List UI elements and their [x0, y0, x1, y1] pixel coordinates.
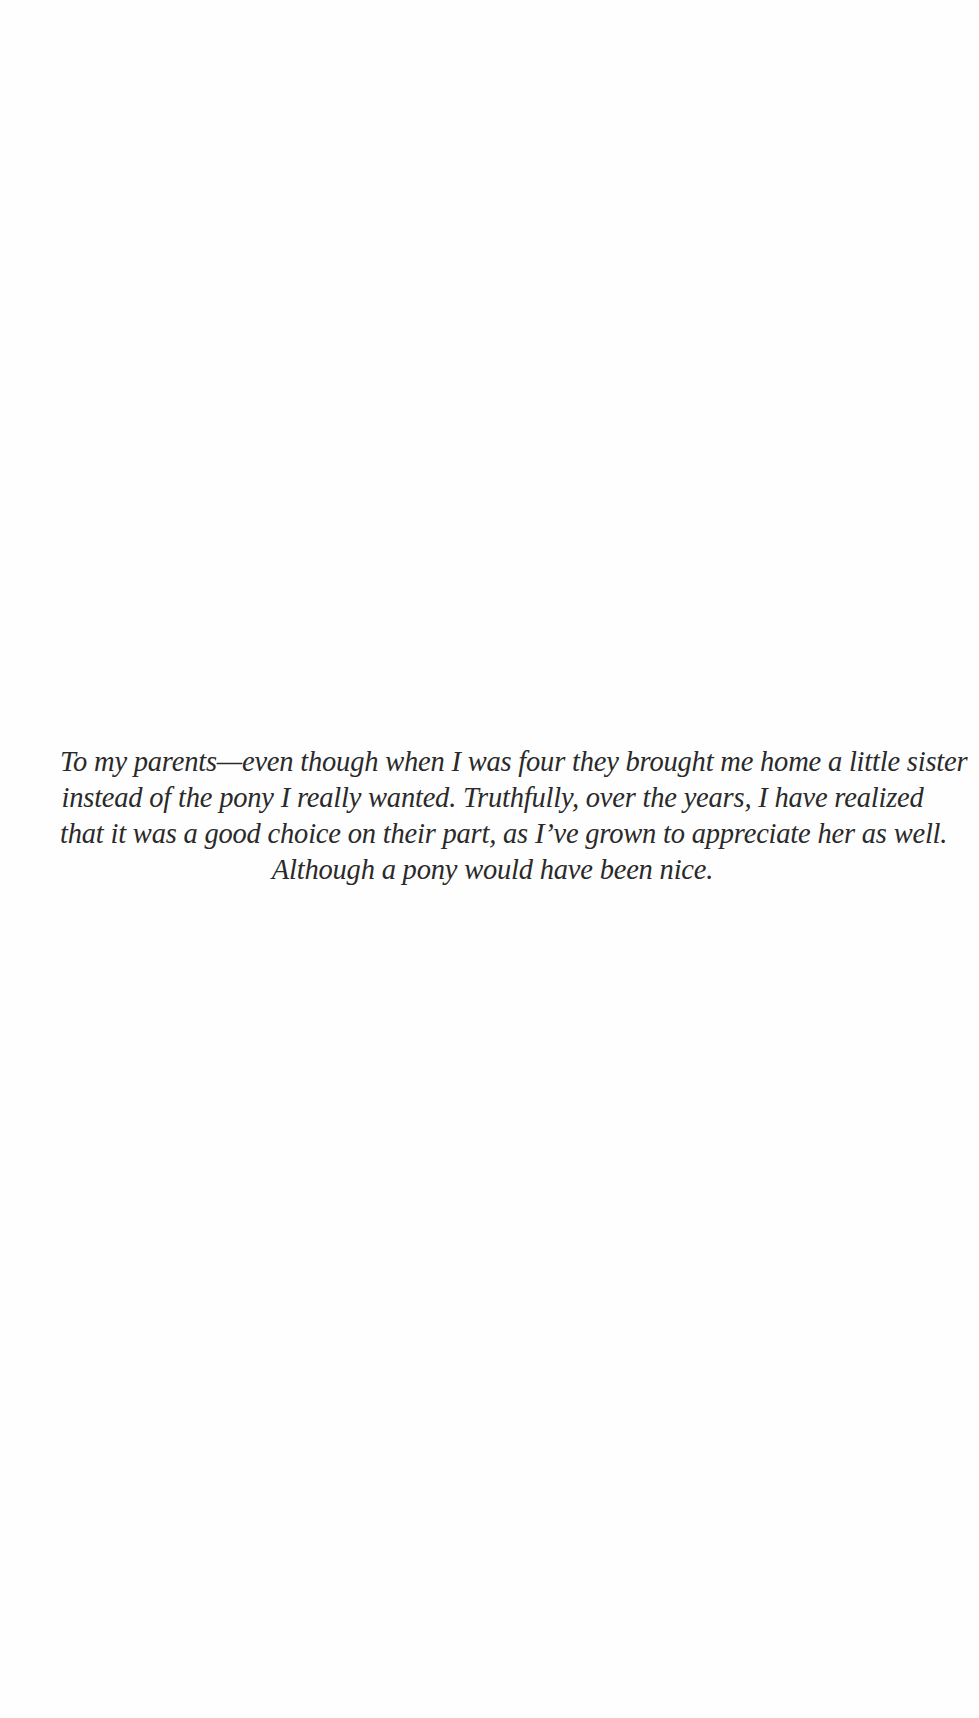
dedication-text: To my parents—even though when I was fou…	[60, 744, 925, 888]
dedication-line: To my parents—even though when I was fou…	[60, 744, 925, 780]
dedication-line: Although a pony would have been nice.	[60, 852, 925, 888]
book-page: To my parents—even though when I was fou…	[0, 0, 979, 1718]
dedication-line: instead of the pony I really wanted. Tru…	[60, 780, 925, 816]
dedication-line: that it was a good choice on their part,…	[60, 816, 925, 852]
